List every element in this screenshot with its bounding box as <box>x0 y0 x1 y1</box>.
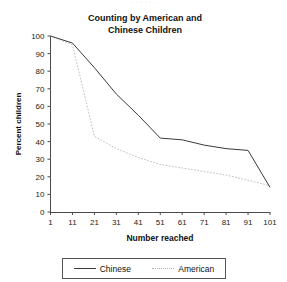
x-tick-label: 31 <box>112 218 121 227</box>
x-tick-label: 91 <box>244 218 253 227</box>
x-tick-label: 81 <box>222 218 231 227</box>
y-tick-label: 0 <box>40 208 45 217</box>
x-tick-label: 21 <box>90 218 99 227</box>
x-tick-label: 41 <box>134 218 143 227</box>
legend-swatch-dotted-icon <box>152 268 174 269</box>
chart-legend: Chinese American <box>62 258 226 279</box>
x-tick-label: 101 <box>263 218 277 227</box>
y-tick-label: 90 <box>36 50 45 59</box>
x-tick-label: 71 <box>200 218 209 227</box>
y-tick-label: 30 <box>36 155 45 164</box>
legend-item-chinese: Chinese <box>74 264 131 274</box>
y-axis-tick-labels: 0102030405060708090100 <box>31 32 45 217</box>
x-tick-label: 51 <box>156 218 165 227</box>
y-tick-label: 80 <box>36 67 45 76</box>
y-tick-label: 20 <box>36 173 45 182</box>
y-tick-label: 60 <box>36 102 45 111</box>
chart-container: · · · · · · Counting by American and Chi… <box>0 0 287 282</box>
y-tick-label: 40 <box>36 138 45 147</box>
x-tick-label: 1 <box>48 218 53 227</box>
y-tick-label: 10 <box>36 190 45 199</box>
legend-label-chinese: Chinese <box>100 264 131 274</box>
x-tick-label: 61 <box>178 218 187 227</box>
x-axis-tick-labels: 1112131415161718191101 <box>48 218 277 227</box>
legend-swatch-solid-icon <box>74 268 96 269</box>
y-axis-title: Percent children <box>14 93 23 156</box>
y-tick-label: 50 <box>36 120 45 129</box>
chart-plot-area: 0102030405060708090100 11121314151617181… <box>0 0 287 282</box>
legend-item-american: American <box>152 264 214 274</box>
x-axis-title: Number reached <box>126 233 193 243</box>
legend-label-american: American <box>178 264 214 274</box>
y-tick-label: 70 <box>36 85 45 94</box>
chart-axes <box>51 36 271 213</box>
series-line-american <box>51 36 271 186</box>
y-tick-label: 100 <box>31 32 45 41</box>
x-tick-label: 11 <box>68 218 77 227</box>
